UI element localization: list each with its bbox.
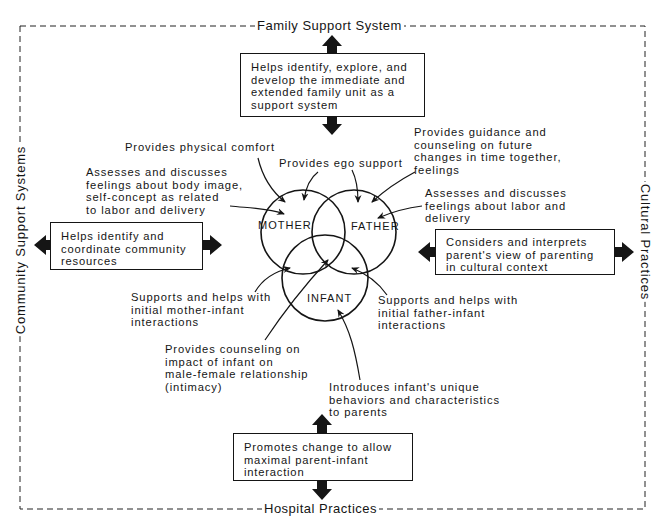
infant-label: INFANT <box>307 292 352 304</box>
annotation-line: delivery <box>425 212 567 225</box>
frame-label-top: Family Support System <box>255 18 404 33</box>
box-line: develop the immediate and <box>251 74 414 87</box>
box-cultural-practices: Considers and interprets parent's view o… <box>435 229 615 275</box>
annotation-line: interactions <box>131 316 271 329</box>
annotation-father-labor: Assesses and discusses feelings about la… <box>425 187 567 225</box>
annotation-physical-comfort: Provides physical comfort <box>125 141 275 154</box>
box-line: coordinate community <box>61 243 192 256</box>
annotation-ego-support: Provides ego support <box>279 157 403 170</box>
box-community-support: Helps identify and coordinate community … <box>50 222 203 270</box>
annotation-line: impact of infant on <box>165 356 308 369</box>
annotation-line: Supports and helps with <box>378 294 518 307</box>
mother-circle <box>261 190 345 274</box>
box-line: resources <box>61 255 192 268</box>
box-line: Helps identify and <box>61 230 192 243</box>
frame-label-bottom: Hospital Practices <box>262 501 379 516</box>
box-line: Considers and interprets <box>446 236 604 249</box>
annotation-line: Provides physical comfort <box>125 141 275 154</box>
annotation-guidance: Provides guidance and counseling on futu… <box>414 126 562 176</box>
box-line: support system <box>251 99 414 112</box>
box-line: in cultural context <box>446 261 604 274</box>
annotation-line: self-concept as related <box>86 191 243 204</box>
annotation-line: male-female relationship <box>165 368 308 381</box>
annotation-line: Introduces infant's unique <box>329 381 500 394</box>
box-line: Helps identify, explore, and <box>251 61 414 74</box>
annotation-line: feelings about labor and <box>425 200 567 213</box>
infant-circle <box>282 235 368 321</box>
box-hospital-practices: Promotes change to allow maximal parent-… <box>233 433 413 481</box>
annotation-mother-infant: Supports and helps with initial mother-i… <box>131 291 271 329</box>
annotation-line: Provides ego support <box>279 157 403 170</box>
annotation-line: to labor and delivery <box>86 204 243 217</box>
annotation-line: changes in time together, <box>414 151 562 164</box>
annotation-line: Provides counseling on <box>165 343 308 356</box>
annotation-line: to parents <box>329 406 500 419</box>
annotation-line: Assesses and discusses <box>86 166 243 179</box>
box-line: Promotes change to allow <box>244 441 402 454</box>
annotation-line: initial mother-infant <box>131 304 271 317</box>
annotation-intimacy: Provides counseling on impact of infant … <box>165 343 308 393</box>
frame-label-right: Cultural Practices <box>638 182 653 302</box>
box-line: maximal parent-infant <box>244 454 402 467</box>
annotation-line: feelings about body image, <box>86 179 243 192</box>
annotation-infant-behaviors: Introduces infant's unique behaviors and… <box>329 381 500 419</box>
annotation-line: initial father-infant <box>378 307 518 320</box>
annotation-father-infant: Supports and helps with initial father-i… <box>378 294 518 332</box>
annotation-body-image: Assesses and discusses feelings about bo… <box>86 166 243 216</box>
box-line: interaction <box>244 466 402 479</box>
frame-label-left: Community Support Systems <box>13 144 28 336</box>
annotation-line: Supports and helps with <box>131 291 271 304</box>
annotation-line: (intimacy) <box>165 381 308 394</box>
father-label: FATHER <box>351 220 400 232</box>
father-circle <box>312 190 396 274</box>
annotation-line: feelings <box>414 164 562 177</box>
box-family-support: Helps identify, explore, and develop the… <box>240 53 425 117</box>
box-line: parent's view of parenting <box>446 249 604 262</box>
mother-label: MOTHER <box>258 219 312 231</box>
annotation-line: behaviors and characteristics <box>329 394 500 407</box>
nursing-support-diagram: Family Support System Hospital Practices… <box>0 0 663 529</box>
annotation-line: Assesses and discusses <box>425 187 567 200</box>
box-line: extended family unit as a <box>251 86 414 99</box>
annotation-line: counseling on future <box>414 139 562 152</box>
annotation-line: Provides guidance and <box>414 126 562 139</box>
annotation-line: interactions <box>378 319 518 332</box>
